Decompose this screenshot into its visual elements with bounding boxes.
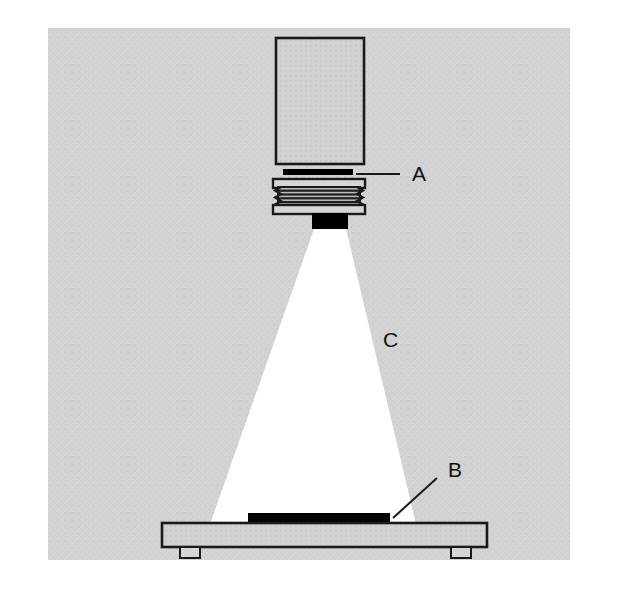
- apparatus-diagram: A B C: [0, 0, 627, 590]
- stage-platform: [162, 523, 487, 547]
- callout-c: C: [383, 328, 398, 351]
- figure-container: A B C: [0, 0, 627, 590]
- callout-c-label: C: [383, 328, 398, 351]
- stage-foot-right: [451, 547, 471, 558]
- stage-foot-left: [180, 547, 200, 558]
- callout-b-label: B: [448, 458, 462, 481]
- lens-barrel-body: [276, 38, 364, 164]
- callout-a-label: A: [412, 162, 426, 185]
- aperture-plate-bar: [283, 169, 353, 175]
- aperture-exit-block: [312, 213, 348, 229]
- threaded-collar: [273, 179, 365, 214]
